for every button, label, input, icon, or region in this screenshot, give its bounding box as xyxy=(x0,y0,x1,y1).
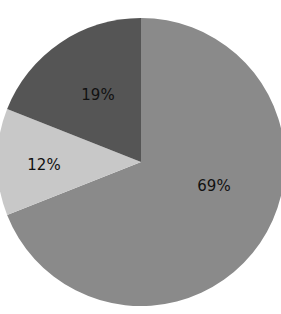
slice-label-69: 69% xyxy=(197,177,230,195)
slice-label-12: 12% xyxy=(27,156,60,174)
pie-chart: 69% 12% 19% xyxy=(0,0,281,314)
slice-label-19: 19% xyxy=(81,86,114,104)
